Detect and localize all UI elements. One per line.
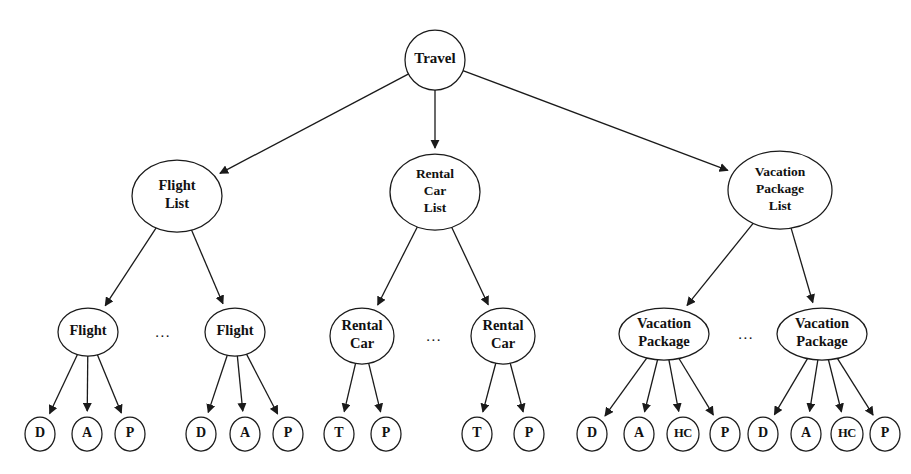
node-vacation-package-1-d[interactable]: D xyxy=(577,417,607,451)
node-label-vacation-package-2-line-2: Package xyxy=(796,333,848,349)
node-label-flight-2: Flight xyxy=(216,322,253,338)
node-label-rental-car-1-t: T xyxy=(334,425,344,440)
node-label-flight-2-d: D xyxy=(196,425,206,440)
node-vacation-package-2-hc[interactable]: HC xyxy=(831,417,863,451)
node-label-vacation-package-1-line-1: Vacation xyxy=(637,315,691,331)
node-vacation-package-list[interactable]: VacationPackageList xyxy=(728,151,832,229)
node-flight-2-a[interactable]: A xyxy=(230,417,260,451)
node-label-vacation-package-list-line-3: List xyxy=(769,198,792,213)
node-travel[interactable]: Travel xyxy=(405,30,465,90)
edge-vacation-package-2-to-vacation-package-2-d xyxy=(774,359,807,415)
edge-flight-list-to-flight-1 xyxy=(105,228,156,306)
node-label-vacation-package-2-a: A xyxy=(801,425,812,440)
node-label-rental-car-list-line-2: Car xyxy=(424,183,447,198)
edge-travel-to-vacation-package-list xyxy=(463,71,728,171)
node-rental-car-1-t[interactable]: T xyxy=(324,417,354,451)
edge-rental-car-1-to-rental-car-1-p xyxy=(369,363,381,411)
node-rental-car-2-t[interactable]: T xyxy=(462,417,492,451)
node-label-rental-car-2-p: P xyxy=(525,425,534,440)
node-vacation-package-1-hc[interactable]: HC xyxy=(667,417,699,451)
edge-flight-2-to-flight-2-d xyxy=(208,355,227,412)
edge-rental-car-list-to-rental-car-2 xyxy=(452,227,489,304)
node-rental-car-1-p[interactable]: P xyxy=(371,417,401,451)
edge-flight-list-to-flight-2 xyxy=(192,230,223,304)
edge-vacation-package-1-to-vacation-package-1-d xyxy=(605,358,647,416)
edge-flight-2-to-flight-2-p xyxy=(247,354,278,414)
edge-vacation-package-2-to-vacation-package-2-a xyxy=(810,360,818,411)
nodes-layer: TravelFlightListRentalCarListVacationPac… xyxy=(25,30,900,451)
node-label-vacation-package-2-line-1: Vacation xyxy=(795,315,849,331)
node-rental-car-1[interactable]: RentalCar xyxy=(330,308,394,364)
node-vacation-package-1-p[interactable]: P xyxy=(710,417,740,451)
node-label-flight-2-p: P xyxy=(284,425,293,440)
node-label-rental-car-list-line-1: Rental xyxy=(416,166,454,181)
edge-vacation-package-1-to-vacation-package-1-a xyxy=(645,360,658,412)
edge-flight-2-to-flight-2-a xyxy=(237,356,242,411)
node-vacation-package-2-d[interactable]: D xyxy=(748,417,778,451)
edge-vacation-package-1-to-vacation-package-1-hc xyxy=(669,360,679,412)
node-flight-2-d[interactable]: D xyxy=(186,417,216,451)
node-label-travel: Travel xyxy=(414,50,455,66)
edge-vacation-package-1-to-vacation-package-1-p xyxy=(679,359,713,415)
edge-vacation-package-list-to-vacation-package-2 xyxy=(791,228,813,302)
node-rental-car-list[interactable]: RentalCarList xyxy=(390,154,480,230)
node-vacation-package-1[interactable]: VacationPackage xyxy=(619,308,709,360)
ellipsis-rental-car: ... xyxy=(426,328,442,344)
node-vacation-package-2-p[interactable]: P xyxy=(870,417,900,451)
node-rental-car-2[interactable]: RentalCar xyxy=(471,308,535,364)
node-label-flight-1-d: D xyxy=(35,425,45,440)
node-label-vacation-package-2-d: D xyxy=(758,425,768,440)
node-vacation-package-2[interactable]: VacationPackage xyxy=(777,308,867,360)
node-flight-1[interactable]: Flight xyxy=(58,308,118,356)
edge-rental-car-list-to-rental-car-1 xyxy=(378,227,418,305)
edge-rental-car-2-to-rental-car-2-p xyxy=(510,363,523,412)
node-label-vacation-package-1-d: D xyxy=(587,425,597,440)
edge-vacation-package-2-to-vacation-package-2-hc xyxy=(828,360,841,412)
ellipsis-flight: ... xyxy=(155,324,171,340)
node-label-flight-list-line-1: Flight xyxy=(158,177,195,193)
node-label-rental-car-1-p: P xyxy=(382,425,391,440)
node-flight-list[interactable]: FlightList xyxy=(132,160,222,232)
tree-diagram-canvas: TravelFlightListRentalCarListVacationPac… xyxy=(0,0,911,474)
node-label-rental-car-2-line-1: Rental xyxy=(482,317,523,333)
node-label-vacation-package-list-line-1: Vacation xyxy=(755,164,806,179)
node-label-rental-car-list-line-3: List xyxy=(424,200,447,215)
node-vacation-package-2-a[interactable]: A xyxy=(791,417,821,451)
node-label-vacation-package-1-a: A xyxy=(634,425,645,440)
node-rental-car-2-p[interactable]: P xyxy=(514,417,544,451)
edge-vacation-package-list-to-vacation-package-1 xyxy=(687,223,753,305)
node-label-vacation-package-1-p: P xyxy=(721,425,730,440)
node-label-vacation-package-2-p: P xyxy=(881,425,890,440)
node-label-rental-car-2-t: T xyxy=(472,425,482,440)
node-flight-1-p[interactable]: P xyxy=(115,417,145,451)
edges-layer xyxy=(50,71,873,416)
node-label-vacation-package-2-hc: HC xyxy=(838,426,856,440)
node-flight-1-d[interactable]: D xyxy=(25,417,55,451)
node-label-flight-1-p: P xyxy=(126,425,135,440)
edge-vacation-package-2-to-vacation-package-2-p xyxy=(837,358,873,415)
edge-travel-to-flight-list xyxy=(220,74,409,173)
node-flight-2[interactable]: Flight xyxy=(205,308,265,356)
node-label-vacation-package-1-hc: HC xyxy=(674,426,692,440)
node-flight-1-a[interactable]: A xyxy=(72,417,102,451)
node-label-flight-1: Flight xyxy=(69,322,106,338)
node-vacation-package-1-a[interactable]: A xyxy=(624,417,654,451)
node-label-vacation-package-1-line-2: Package xyxy=(638,333,690,349)
node-label-rental-car-2-line-2: Car xyxy=(491,335,516,351)
node-label-flight-2-a: A xyxy=(240,425,251,440)
node-label-flight-1-a: A xyxy=(82,425,93,440)
edge-rental-car-2-to-rental-car-2-t xyxy=(483,363,496,412)
tree-diagram: TravelFlightListRentalCarListVacationPac… xyxy=(0,0,911,474)
node-label-flight-list-line-2: List xyxy=(165,195,189,211)
node-label-rental-car-1-line-1: Rental xyxy=(341,317,382,333)
node-label-vacation-package-list-line-2: Package xyxy=(756,181,804,196)
node-label-rental-car-1-line-2: Car xyxy=(350,335,375,351)
node-flight-2-p[interactable]: P xyxy=(273,417,303,451)
edge-flight-1-to-flight-1-a xyxy=(87,356,88,411)
ellipsis-vacation-package: ... xyxy=(738,326,754,342)
edge-rental-car-1-to-rental-car-1-t xyxy=(344,363,355,411)
edge-flight-1-to-flight-1-p xyxy=(97,355,121,413)
edge-flight-1-to-flight-1-d xyxy=(50,354,78,413)
